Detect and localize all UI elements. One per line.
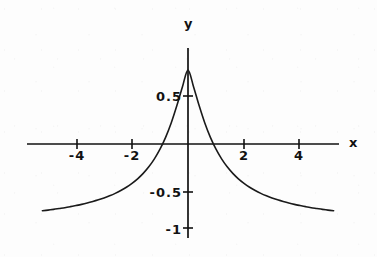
y-tick-label--0.5: -0.5 [150,185,182,200]
y-tick-label-0.5: 0.5 [156,89,182,104]
x-tick-label--2: -2 [124,148,140,163]
y-tick-label--1: -1 [166,222,182,237]
y-axis-label: y [184,16,192,31]
axes-group [27,48,339,238]
chart-figure: y x -4 -2 2 4 0.5 -0.5 -1 [0,0,377,257]
x-tick-label-4: 4 [294,148,304,163]
x-tick-label--4: -4 [69,148,85,163]
x-axis-label: x [349,135,357,150]
x-tick-label-2: 2 [239,148,249,163]
plot-canvas [0,0,377,257]
